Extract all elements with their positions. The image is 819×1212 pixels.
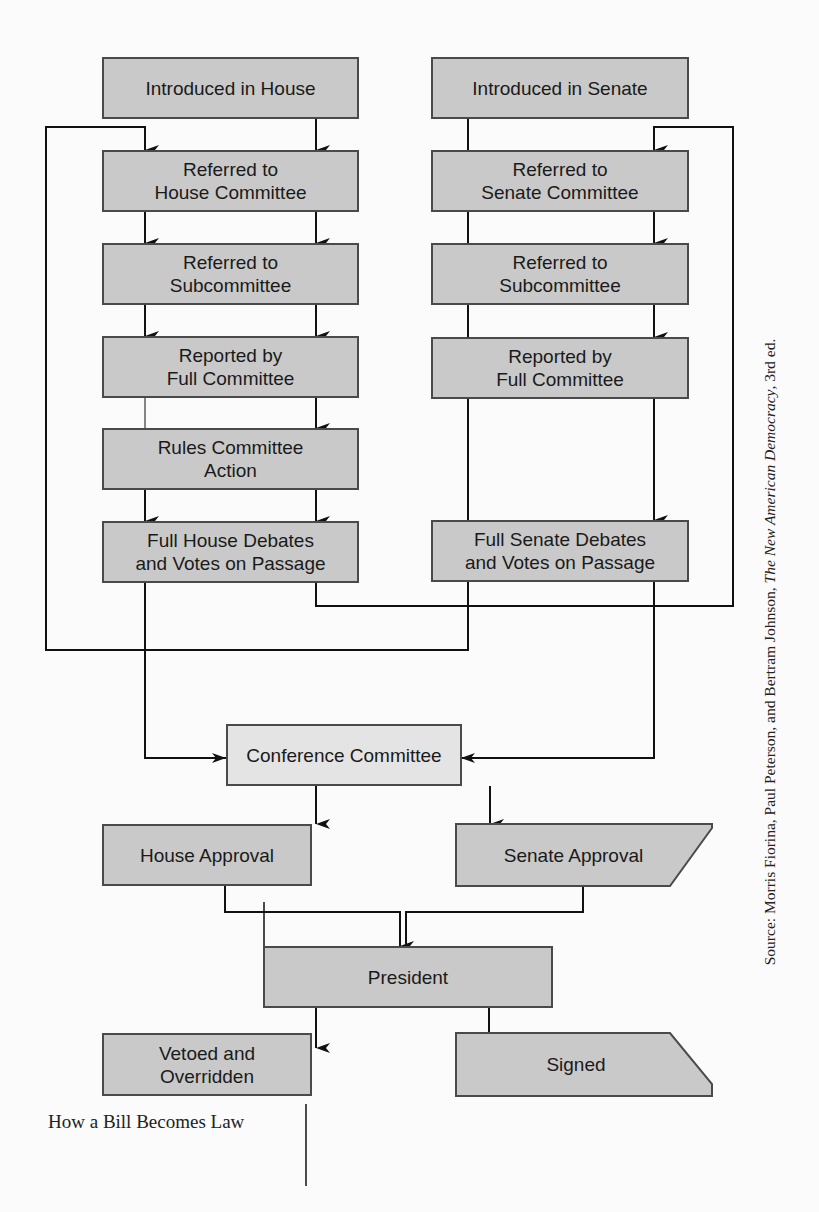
president-box: President: [263, 946, 553, 1008]
vetoed-overridden-box: Vetoed and Overridden: [102, 1033, 312, 1096]
house-passage-box: Full House Debates and Votes on Passage: [102, 521, 359, 583]
signed-label: Signed: [456, 1033, 696, 1096]
house-committee-box: Referred to House Committee: [102, 150, 359, 212]
senate-committee-box: Referred to Senate Committee: [431, 150, 689, 212]
house-subcommittee-box: Referred to Subcommittee: [102, 243, 359, 305]
house-reported-box: Reported by Full Committee: [102, 336, 359, 398]
senate-subcommittee-box: Referred to Subcommittee: [431, 243, 689, 305]
figure-caption: How a Bill Becomes Law: [48, 1111, 244, 1133]
source-book-title: The New American Democracy: [761, 390, 778, 584]
house-approval-box: House Approval: [102, 824, 312, 886]
senate-passage-box: Full Senate Debates and Votes on Passage: [431, 520, 689, 582]
senate-introduced-box: Introduced in Senate: [431, 57, 689, 119]
senate-approval-label: Senate Approval: [456, 824, 691, 886]
source-suffix: , 3rd ed.: [761, 339, 778, 390]
source-credit: Source: Morris Fiorina, Paul Peterson, a…: [761, 339, 779, 966]
source-prefix: Source: Morris Fiorina, Paul Peterson, a…: [761, 583, 778, 965]
conference-committee-box: Conference Committee: [226, 724, 462, 786]
house-introduced-box: Introduced in House: [102, 57, 359, 119]
house-rules-committee-box: Rules Committee Action: [102, 428, 359, 490]
senate-reported-box: Reported by Full Committee: [431, 337, 689, 399]
